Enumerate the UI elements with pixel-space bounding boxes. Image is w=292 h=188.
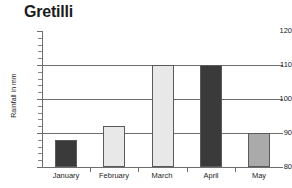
x-axis-label-february: February	[90, 171, 138, 180]
y-tick-minor-104	[38, 85, 42, 86]
y-tick-minor-96	[38, 113, 42, 114]
y-tick-label-90: 90	[258, 129, 292, 137]
y-tick-80	[37, 167, 42, 168]
y-tick-110	[37, 65, 42, 66]
bar-may	[248, 133, 270, 167]
y-tick-100	[37, 99, 42, 100]
chart-title: Gretilli	[24, 3, 73, 21]
y-tick-minor-88	[38, 140, 42, 141]
y-tick-minor-82	[38, 160, 42, 161]
bar-chart: Gretilli Rainfall in mm 8090100110120 Ja…	[0, 0, 292, 188]
y-tick-minor-98	[38, 106, 42, 107]
y-tick-minor-114	[38, 51, 42, 52]
x-axis-label-march: March	[138, 171, 186, 180]
x-axis-label-april: April	[187, 171, 235, 180]
y-tick-minor-108	[38, 72, 42, 73]
y-tick-90	[37, 133, 42, 134]
bar-march	[152, 65, 174, 167]
x-axis-label-may: May	[235, 171, 283, 180]
bar-january	[55, 140, 77, 167]
bar-february	[103, 126, 125, 167]
bar-april	[200, 65, 222, 167]
y-tick-minor-112	[38, 58, 42, 59]
y-tick-label-100: 100	[258, 95, 292, 103]
y-tick-minor-94	[38, 119, 42, 120]
y-tick-minor-86	[38, 147, 42, 148]
x-axis-label-january: January	[42, 171, 90, 180]
y-tick-minor-102	[38, 92, 42, 93]
y-tick-minor-84	[38, 153, 42, 154]
y-tick-minor-106	[38, 79, 42, 80]
x-axis-line	[42, 167, 283, 168]
y-tick-120	[37, 31, 42, 32]
y-tick-label-120: 120	[258, 27, 292, 35]
y-tick-minor-116	[38, 45, 42, 46]
y-axis-label: Rainfall in mm	[10, 58, 17, 134]
y-tick-label-80: 80	[258, 163, 292, 171]
plot-area	[42, 31, 283, 167]
y-tick-minor-92	[38, 126, 42, 127]
y-tick-minor-118	[38, 38, 42, 39]
y-tick-label-110: 110	[258, 61, 292, 69]
